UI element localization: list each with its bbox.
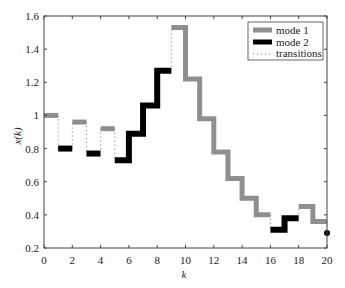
x-tick-label: 16: [265, 254, 277, 266]
x-tick-label: 12: [208, 254, 219, 266]
y-tick-label: 0.6: [25, 176, 39, 188]
y-tick-label: 0.4: [25, 209, 39, 221]
x-tick-label: 14: [237, 254, 249, 266]
x-tick-labels: 02468101214161820: [41, 254, 333, 266]
mode2-stairs: [115, 71, 172, 160]
mode1-stairs: [299, 207, 327, 222]
y-axis-label: x(k): [11, 127, 24, 145]
x-tick-label: 4: [98, 254, 104, 266]
legend-label-mode1: mode 1: [276, 24, 309, 36]
legend: mode 1 mode 2 transitions: [248, 22, 323, 60]
x-axis-label: k: [182, 268, 188, 280]
legend-label-transitions: transitions: [276, 47, 322, 59]
x-tick-label: 10: [180, 254, 192, 266]
mode2-stairs: [270, 218, 298, 230]
x-tick-label: 20: [322, 254, 334, 266]
x-tick-label: 6: [126, 254, 132, 266]
x-tick-label: 2: [70, 254, 76, 266]
y-tick-labels: 0.20.40.60.811.21.41.6: [25, 10, 39, 254]
y-tick-label: 0.8: [25, 143, 39, 155]
x-tick-label: 8: [154, 254, 160, 266]
y-tick-label: 1.4: [25, 43, 39, 55]
y-tick-label: 0.2: [25, 242, 39, 254]
y-tick-label: 1.6: [25, 10, 39, 22]
stairs-chart: 02468101214161820 0.20.40.60.811.21.41.6…: [0, 0, 345, 288]
y-tick-label: 1: [34, 109, 40, 121]
x-tick-label: 0: [41, 254, 47, 266]
x-tick-label: 18: [293, 254, 305, 266]
y-tick-label: 1.2: [25, 76, 39, 88]
